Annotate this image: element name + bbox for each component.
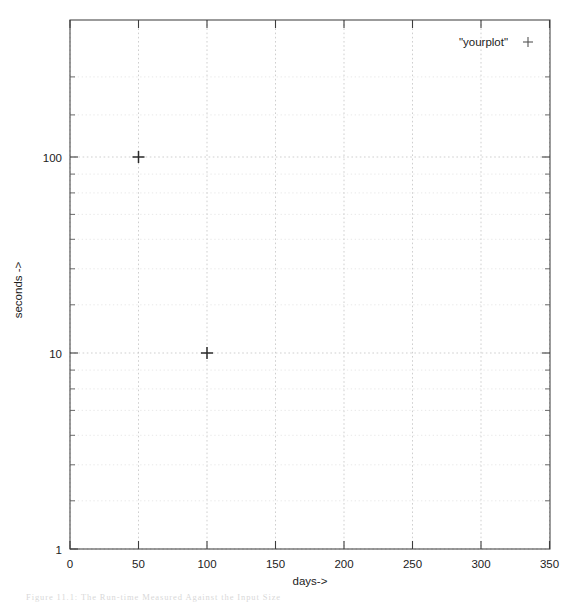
figure-caption: Figure 11.1: The Run-time Measured Again… bbox=[26, 592, 281, 602]
legend-entry-label: "yourplot" bbox=[459, 36, 508, 48]
x-tick-label-350: 350 bbox=[540, 558, 559, 570]
x-tick-label-250: 250 bbox=[403, 558, 422, 570]
y-tick-label-1: 1 bbox=[56, 544, 62, 556]
x-tick-label-0: 0 bbox=[67, 558, 73, 570]
x-tick-label-200: 200 bbox=[334, 558, 353, 570]
x-tick-label-100: 100 bbox=[197, 558, 216, 570]
x-axis-title: days-> bbox=[293, 575, 328, 587]
y-tick-label-10: 10 bbox=[49, 348, 62, 360]
x-tick-label-300: 300 bbox=[471, 558, 490, 570]
y-tick-label-100: 100 bbox=[43, 152, 62, 164]
x-tick-label-50: 50 bbox=[132, 558, 145, 570]
gnuplot-chart: 100 10 1 0 50 100 150 200 250 300 350 da… bbox=[0, 0, 568, 604]
chart-background bbox=[0, 0, 568, 604]
y-axis-title: seconds -> bbox=[12, 261, 24, 318]
figure-container: 100 10 1 0 50 100 150 200 250 300 350 da… bbox=[0, 0, 568, 604]
x-tick-label-150: 150 bbox=[266, 558, 285, 570]
